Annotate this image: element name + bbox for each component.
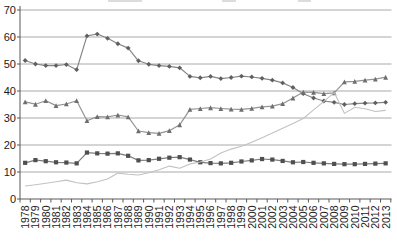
data-point — [229, 161, 233, 165]
data-point — [146, 62, 151, 67]
data-point — [33, 158, 37, 162]
data-point — [281, 159, 285, 163]
data-point — [373, 100, 378, 105]
series-line — [25, 34, 386, 105]
cropped-artifact — [298, 0, 311, 2]
data-point — [250, 158, 254, 162]
data-point — [218, 76, 223, 81]
data-point — [291, 96, 296, 101]
data-point — [23, 58, 28, 63]
data-point — [363, 101, 368, 106]
data-point — [301, 160, 305, 164]
data-point — [280, 81, 285, 86]
data-point — [384, 161, 388, 165]
data-point — [342, 162, 346, 166]
data-point — [74, 67, 79, 72]
y-axis-label: 50 — [4, 58, 16, 70]
data-point — [23, 161, 27, 165]
y-axis-label: 20 — [4, 139, 16, 151]
data-point — [85, 34, 90, 39]
data-point — [332, 162, 336, 166]
data-point — [95, 32, 100, 37]
data-point — [75, 161, 79, 165]
data-point — [167, 64, 172, 69]
data-point — [95, 151, 99, 155]
data-point — [85, 118, 90, 123]
data-point — [352, 101, 357, 106]
data-point — [332, 100, 337, 105]
data-point — [208, 161, 212, 165]
series-line — [25, 153, 386, 165]
data-point — [126, 154, 130, 158]
data-point — [198, 75, 203, 80]
data-point — [260, 157, 264, 161]
line-chart-screenshot: 0102030405060701978197919801981198219831… — [0, 0, 397, 244]
data-point — [116, 151, 120, 155]
data-point — [239, 159, 243, 163]
data-point — [311, 161, 315, 165]
data-point — [64, 160, 68, 164]
cropped-artifact — [108, 0, 142, 2]
data-point — [208, 74, 213, 79]
data-point — [136, 158, 140, 162]
series-line — [25, 77, 386, 133]
data-point — [229, 75, 234, 80]
data-point — [157, 157, 161, 161]
x-axis-labels: 1978197919801981198219831984198519861987… — [19, 205, 392, 229]
data-point — [105, 152, 109, 156]
data-point — [85, 150, 89, 154]
series-2 — [23, 75, 388, 136]
y-axis-label: 10 — [4, 166, 16, 178]
y-axis-label: 60 — [4, 31, 16, 43]
y-axis-label: 70 — [4, 4, 16, 16]
line-chart: 0102030405060701978197919801981198219831… — [0, 0, 397, 244]
data-point — [353, 162, 357, 166]
data-point — [188, 157, 192, 161]
data-point — [291, 160, 295, 164]
data-point — [260, 76, 265, 81]
data-point — [33, 62, 38, 67]
data-point — [249, 75, 254, 80]
cropped-artifact-top-edge — [108, 0, 311, 2]
data-point — [270, 78, 275, 83]
data-point — [363, 162, 367, 166]
series-1 — [23, 32, 388, 107]
axis-ticks — [17, 10, 391, 203]
y-axis-label: 30 — [4, 112, 16, 124]
data-point — [115, 41, 120, 46]
data-point — [270, 157, 274, 161]
y-axis-labels: 010203040506070 — [4, 4, 16, 205]
x-axis-label: 2013 — [380, 205, 392, 229]
data-point — [64, 62, 69, 67]
y-axis-label: 0 — [10, 193, 16, 205]
data-point — [342, 102, 347, 107]
data-point — [219, 161, 223, 165]
data-point — [383, 100, 388, 105]
series-3 — [23, 150, 388, 166]
cropped-artifact — [222, 0, 236, 2]
data-point — [322, 161, 326, 165]
data-point — [311, 96, 316, 101]
data-point — [147, 158, 151, 162]
data-point — [178, 155, 182, 159]
data-point — [239, 74, 244, 79]
data-point — [373, 162, 377, 166]
y-axis-label: 40 — [4, 85, 16, 97]
data-point — [44, 159, 48, 163]
data-point — [167, 156, 171, 160]
data-point — [54, 160, 58, 164]
